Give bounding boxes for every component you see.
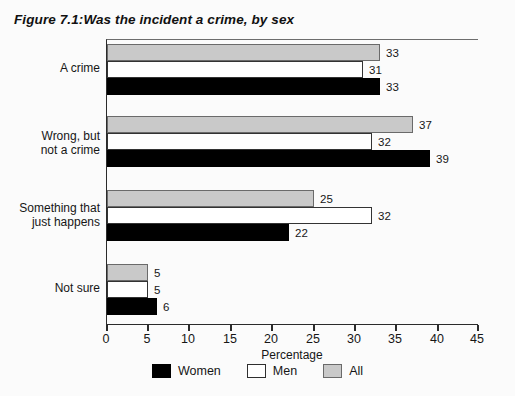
x-tick-label-25: 25	[306, 332, 320, 346]
legend-swatch-women-icon	[152, 364, 171, 378]
figure-number: Figure 7.1:	[14, 12, 83, 27]
bar-notsure-all	[107, 264, 148, 281]
x-tick-label-35: 35	[388, 332, 402, 346]
bar-a-crime-women	[107, 78, 380, 95]
legend-label-all: All	[349, 364, 363, 378]
x-tick-35	[395, 325, 397, 331]
x-tick-label-5: 5	[144, 332, 151, 346]
x-tick-10	[188, 325, 190, 331]
x-tick-label-0: 0	[103, 332, 110, 346]
bar-value-a-crime-men: 31	[369, 64, 382, 76]
bar-value-a-crime-women: 33	[386, 81, 399, 93]
bar-value-wrong-men: 32	[378, 136, 391, 148]
legend-label-men: Men	[273, 364, 297, 378]
x-tick-label-30: 30	[347, 332, 361, 346]
bar-value-happens-women: 22	[295, 227, 308, 239]
bar-value-wrong-all: 37	[419, 119, 432, 131]
legend-label-women: Women	[178, 364, 221, 378]
x-tick-40	[437, 325, 439, 331]
x-tick-45	[477, 325, 479, 331]
x-tick-15	[230, 325, 232, 331]
bar-value-a-crime-all: 33	[386, 47, 399, 59]
category-label-a-crime: A crime	[0, 61, 100, 75]
category-label-wrong-not-crime: Wrong, but not a crime	[0, 129, 100, 157]
legend-swatch-men-icon	[247, 364, 266, 378]
x-axis-title: Percentage	[106, 348, 478, 362]
category-label-just-happens: Something that just happens	[0, 201, 100, 229]
x-tick-label-15: 15	[223, 332, 237, 346]
x-tick-25	[313, 325, 315, 331]
bar-value-notsure-women: 6	[163, 301, 169, 313]
legend-item-women: Women	[152, 364, 221, 378]
plot-area: 33 31 33 37 32 39	[106, 39, 478, 325]
x-tick-5	[147, 325, 149, 331]
bar-a-crime-men	[107, 61, 363, 78]
category-axis-labels: A crime Wrong, but not a crime Something…	[0, 39, 100, 325]
bar-value-happens-all: 25	[320, 193, 333, 205]
bar-value-notsure-men: 5	[154, 284, 160, 296]
bar-wrong-women	[107, 150, 430, 167]
bar-wrong-all	[107, 116, 413, 133]
x-tick-20	[271, 325, 273, 331]
x-tick-label-45: 45	[470, 332, 484, 346]
bar-happens-men	[107, 207, 372, 224]
bar-happens-women	[107, 224, 289, 241]
bar-wrong-men	[107, 133, 372, 150]
x-tick-30	[354, 325, 356, 331]
x-tick-label-40: 40	[430, 332, 444, 346]
x-tick-0	[106, 325, 108, 331]
legend-item-men: Men	[247, 364, 297, 378]
legend-item-all: All	[323, 364, 363, 378]
legend: Women Men All	[0, 364, 515, 378]
bar-notsure-men	[107, 281, 148, 298]
category-label-not-sure: Not sure	[0, 281, 100, 295]
x-tick-label-20: 20	[264, 332, 278, 346]
figure-title-text: Was the incident a crime, by sex	[83, 12, 294, 27]
figure-title: Figure 7.1:Was the incident a crime, by …	[14, 12, 494, 34]
bar-value-notsure-all: 5	[154, 267, 160, 279]
bar-value-happens-men: 32	[378, 210, 391, 222]
x-tick-label-10: 10	[181, 332, 195, 346]
figure-container: Figure 7.1:Was the incident a crime, by …	[0, 0, 515, 396]
bar-value-wrong-women: 39	[436, 153, 449, 165]
bar-notsure-women	[107, 298, 157, 315]
bar-happens-all	[107, 190, 314, 207]
bar-a-crime-all	[107, 44, 380, 61]
legend-swatch-all-icon	[323, 364, 342, 378]
